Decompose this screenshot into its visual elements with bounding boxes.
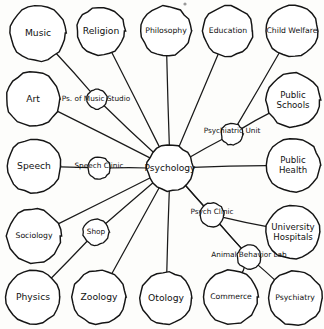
edge-publichealth-center [192, 166, 266, 168]
node-label-public-schools: PublicSchools [276, 90, 310, 110]
node-label-zoology: Zoology [81, 291, 119, 302]
edge-psychiatry-lab [258, 265, 276, 281]
node-label-child-welfare: Child Welfare [267, 26, 318, 35]
edge-philosophy-center [167, 55, 170, 145]
edge-studio-center [104, 106, 154, 153]
node-label-sociology: Sociology [16, 231, 53, 240]
edge-sociology-center [58, 178, 150, 224]
node-label-music: Music [25, 27, 51, 38]
node-label-speech-clinic: Speech Clinic [74, 161, 123, 170]
node-label-speech: Speech [17, 160, 51, 171]
node-label-psych-clinic: Psych Clinic [190, 207, 233, 216]
node-label-music-studio: Ps. of Music Studio [62, 94, 131, 103]
node-label-education: Education [209, 26, 247, 35]
node-label-animal-behavior-lab: Animal Behavior Lab [211, 250, 287, 259]
edge-art-center [57, 111, 150, 158]
node-label-public-health: PublicHealth [279, 155, 307, 175]
edge-unit-center [190, 139, 223, 157]
node-label-commerce: Commerce [210, 292, 252, 301]
node-label-shop: Shop [87, 227, 106, 236]
node-label-university-hospitals: UniversityHospitals [271, 222, 314, 242]
edge-otology-center [167, 190, 170, 272]
edge-music-studio [56, 54, 90, 92]
diagram-canvas: MusicReligionPhilosophyEducationChild We… [0, 0, 324, 329]
edge-psychclinic-lab [220, 224, 242, 249]
edge-zoology-center [112, 188, 159, 274]
node-label-philosophy: Philosophy [145, 26, 187, 35]
node-label-psychiatry: Psychiatry [275, 293, 315, 302]
psychology-relations-diagram: MusicReligionPhilosophyEducationChild We… [0, 0, 324, 329]
node-label-psychiatric-unit: Psychiatric Unit [204, 126, 261, 135]
node-label-psychology: Psychology [144, 163, 196, 173]
edge-hospitals-psychclinic [223, 217, 267, 226]
node-label-religion: Religion [83, 25, 120, 36]
ink-speck [183, 2, 186, 5]
node-label-art: Art [26, 93, 40, 104]
node-label-otology: Otology [148, 292, 184, 303]
node-label-physics: Physics [16, 291, 50, 302]
